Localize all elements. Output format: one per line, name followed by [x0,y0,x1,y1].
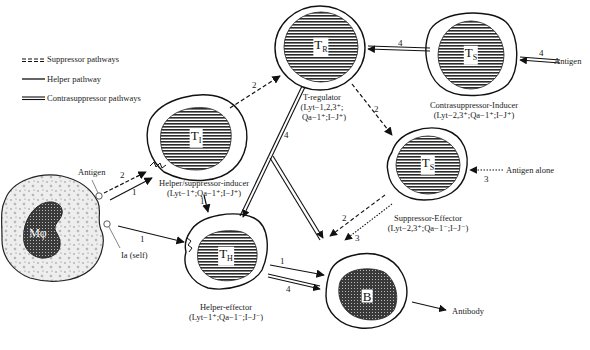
ts-name: Suppressor-Effector [394,213,462,223]
num-th-b-solid: 1 [280,256,285,266]
antibody-label: Antibody [452,306,484,316]
ti-name: Helper/suppressor-inducer [159,178,249,188]
legend-helper-label: Helper pathway [47,74,101,84]
num-ti-th: 1 [200,196,205,206]
macrophage-cell [2,175,120,281]
b-symbol: B [362,290,373,303]
num-tr-th: 4 [284,130,289,140]
th-name: Helper-effector [200,302,252,312]
legend-suppressor-label: Suppressor pathways [47,54,119,64]
num-tcs-tr: 4 [398,38,403,48]
num-antigen-tcs: 4 [539,48,544,58]
tcs-name: Contrasuppressor-Inducer [430,100,518,110]
num-mo-th: 1 [140,234,145,244]
antigen-label: Antigen [78,167,105,177]
tcs-markers: (Lyt−2,3⁺;Qa−1⁺;I−J⁺) [434,110,514,120]
ts-markers: (Lyt−2,3⁺;Qa−1⁻;I−J⁻) [388,223,468,233]
th-symbol: TH [218,247,234,266]
antigen-alone-label: Antigen alone [506,165,554,175]
tr-markers-1: (Lyt−1,2,3⁺; [301,102,344,112]
num-mo-ti-solid: 1 [132,187,137,197]
num-antigen-ts: 3 [484,174,489,184]
ti-symbol: TI [190,129,203,148]
tr-name: T-regulator [303,92,341,102]
legend-contrasuppressor-label: Contrasuppressor pathways [47,93,141,103]
ia-self-label: Ia (self) [121,250,148,260]
th-markers: (Lyt−1⁺;Qa−1⁻;I−J⁻) [189,312,263,322]
macrophage-symbol: Mφ [28,227,48,240]
num-ts-b-dashed: 2 [342,213,347,223]
num-tr-ts: 2 [374,104,379,114]
num-mo-ti-dashed: 2 [120,170,125,180]
tcs-symbol: TS [464,46,478,65]
num-th-b-double: 4 [286,284,291,294]
num-ti-tr: 2 [252,80,257,90]
tr-symbol: TR [313,38,328,57]
ts-symbol: TS [421,156,435,175]
antigen-right-label: Antigen [554,56,581,66]
legend-symbols [22,59,45,100]
tr-markers-2: Qa−1⁺;I−J⁺) [302,112,346,122]
num-ts-b-dotted: 3 [355,233,360,243]
